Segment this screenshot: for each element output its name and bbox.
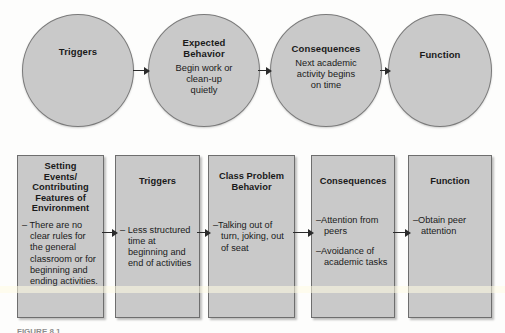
arrow-right-icon [258,66,272,75]
arrow-head [144,67,150,75]
box-node-class-problem-behavior-list: –Talking out of turn, joking, out of sea… [213,220,290,254]
box-node-setting-events-list: – There are no clear rules for the gener… [22,220,99,287]
box-node-triggers: Triggers – Less structured time at begin… [115,155,200,318]
arrow-head [112,229,118,237]
circle-node-expected-behavior: Expected Behavior Begin work or clean-up… [148,14,260,127]
circle-node-expected-behavior-body: Begin work or clean-up quietly [176,63,233,96]
list-item: –Obtain peer attention [413,215,487,237]
box-node-consequences-title: Consequences [316,176,390,187]
box-node-function: Function –Obtain peer attention [408,155,492,318]
arrow-head [405,229,411,237]
box-node-class-problem-behavior: Class Problem Behavior –Talking out of t… [208,155,295,318]
circle-node-function: Function [388,14,492,127]
arrow-shaft [293,232,309,234]
arrow-right-icon [102,228,118,237]
arrow-head [308,229,314,237]
box-node-function-list: –Obtain peer attention [413,215,487,237]
arrow-head [385,67,391,75]
arrow-head [205,229,211,237]
arrow-right-icon [133,66,150,75]
circle-node-function-title: Function [420,49,461,60]
list-item: – There are no clear rules for the gener… [22,220,99,287]
box-node-triggers-list: – Less structured time at beginning and … [120,225,195,270]
circle-node-expected-behavior-title: Expected Behavior [182,37,225,59]
list-item: –Attention from peers [316,215,390,237]
box-node-consequences-list: –Attention from peers –Avoidance of acad… [316,215,390,269]
arrow-head [266,67,272,75]
box-node-class-problem-behavior-title: Class Problem Behavior [213,171,290,192]
arrow-right-icon [293,228,314,237]
box-node-consequences: Consequences –Attention from peers –Avoi… [311,155,395,318]
list-item: – Less structured time at beginning and … [120,225,195,270]
problem-behavior-pathway-row: Setting Events/ Contributing Features of… [0,155,505,325]
arrow-right-icon [380,66,391,75]
box-node-triggers-title: Triggers [120,176,195,187]
diagram-page: Triggers Expected Behavior Begin work or… [0,0,505,333]
circle-node-consequences-body: Next academic activity begins on time [295,58,357,91]
list-item: –Talking out of turn, joking, out of sea… [213,220,290,254]
box-node-setting-events-title: Setting Events/ Contributing Features of… [22,161,99,214]
box-node-setting-events: Setting Events/ Contributing Features of… [17,155,104,318]
list-item: –Avoidance of academic tasks [316,246,390,268]
figure-caption: FIGURE 8.1 [17,327,61,333]
circle-node-triggers: Triggers [22,14,134,127]
arrow-right-icon [393,228,411,237]
arrow-right-icon [197,228,211,237]
box-node-function-title: Function [413,176,487,187]
circle-node-consequences: Consequences Next academic activity begi… [270,14,382,127]
circle-node-consequences-title: Consequences [292,43,361,54]
circle-node-triggers-title: Triggers [59,46,97,57]
desired-behavior-pathway-row: Triggers Expected Behavior Begin work or… [0,0,505,145]
